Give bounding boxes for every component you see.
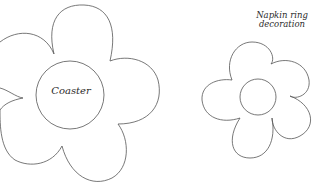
napkin-flower-outline bbox=[202, 42, 311, 158]
napkin-ring-label-line2: decoration bbox=[242, 20, 322, 29]
napkin-ring-label: Napkin ring decoration bbox=[242, 11, 322, 29]
pattern-diagram: Coaster Napkin ring decoration bbox=[0, 0, 324, 185]
coaster-label: Coaster bbox=[46, 86, 96, 96]
